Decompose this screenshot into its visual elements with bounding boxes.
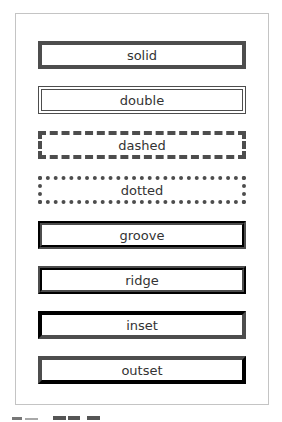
border-style-label: double (120, 94, 164, 107)
border-styles-panel: solid double dashed dotted groove ridge … (15, 13, 269, 405)
clipped-caption (0, 414, 282, 422)
border-demo-box-dotted: dotted (38, 176, 246, 204)
border-style-label: dashed (118, 139, 165, 152)
clipped-caption-fragment (25, 418, 38, 420)
clipped-caption-fragment (53, 416, 66, 420)
border-demo-box-groove: groove (38, 221, 246, 249)
border-style-label: solid (127, 49, 157, 62)
border-style-label: dotted (121, 184, 164, 197)
border-demo-box-inset: inset (38, 311, 246, 339)
border-demo-box-dashed: dashed (38, 131, 246, 159)
border-style-label: outset (121, 364, 162, 377)
clipped-caption-fragment (68, 416, 80, 420)
border-demo-box-outset: outset (38, 356, 246, 384)
clipped-caption-fragment (12, 417, 22, 420)
border-demo-box-ridge: ridge (38, 266, 246, 294)
border-demo-box-double: double (38, 86, 246, 114)
border-style-label: ridge (125, 274, 158, 287)
clipped-caption-fragment (87, 416, 100, 420)
border-demo-box-solid: solid (38, 41, 246, 69)
border-style-label: inset (126, 319, 158, 332)
border-style-label: groove (120, 229, 165, 242)
